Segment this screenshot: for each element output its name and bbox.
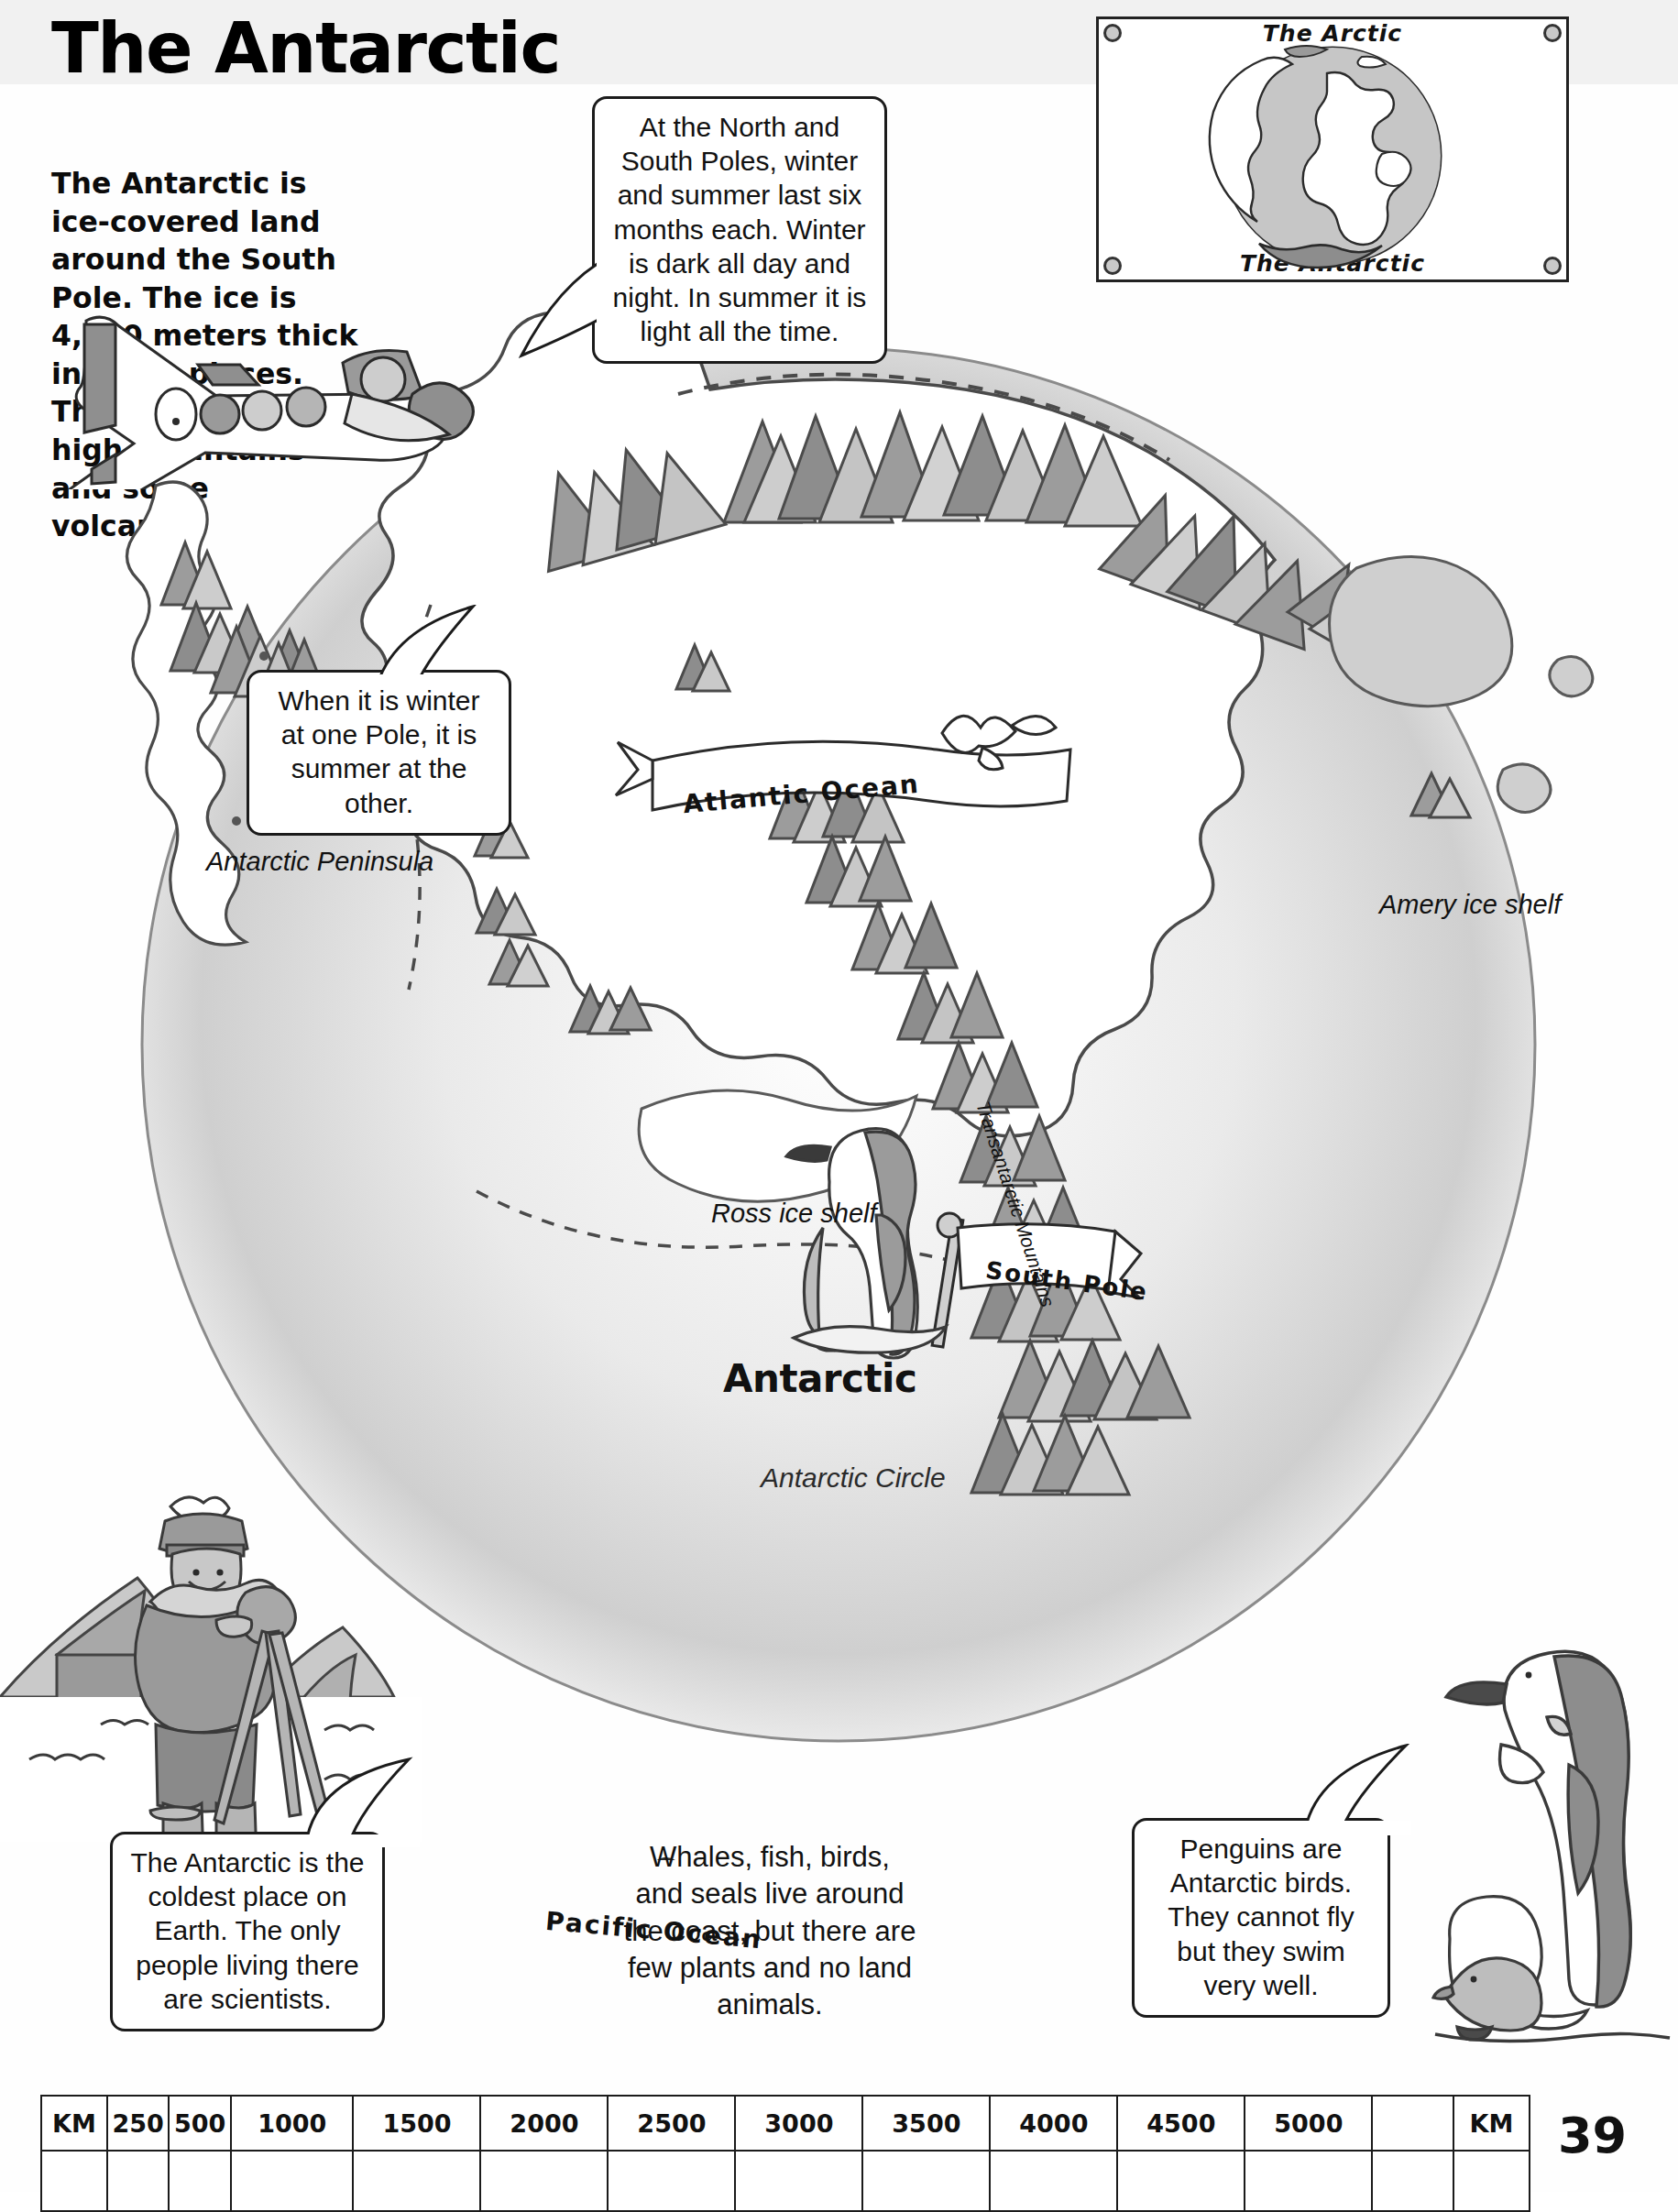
page-title: The Antarctic [51, 7, 560, 89]
label-antarctic-circle: Antarctic Circle [761, 1462, 946, 1494]
scale-bar-cell: 2000 [480, 2096, 608, 2151]
wildlife-caption: Whales, fish, birds, and seals live arou… [623, 1839, 916, 2023]
speech-bubble-penguins: Penguins are Antarctic birds. They canno… [1132, 1818, 1390, 2018]
bubble-tail-icon [1301, 1744, 1411, 1835]
scale-bar-blank-cell [990, 2151, 1117, 2211]
scale-bar-cell: KM [1453, 2096, 1530, 2151]
bubble-seasons-text: When it is winter at one Pole, it is sum… [278, 685, 479, 818]
scale-bar-cell: 3500 [862, 2096, 990, 2151]
scale-bar-blank-cell [353, 2151, 480, 2211]
scale-bar-blank-cell [608, 2151, 735, 2211]
scale-bar-labels-row: KM25050010001500200025003000350040004500… [41, 2096, 1530, 2151]
bubble-tail-icon [512, 253, 613, 363]
scale-bar-blank-cell [41, 2151, 107, 2211]
scale-bar-cell: 2500 [608, 2096, 735, 2151]
scale-bar-blank-cell [1117, 2151, 1245, 2211]
scale-bar-cell: 250 [107, 2096, 170, 2151]
scale-bar-blank-cell [231, 2151, 353, 2211]
airplane-illustration [48, 306, 488, 489]
globe-inset-panel: The Arctic The Antarctic [1096, 16, 1569, 282]
speech-bubble-seasons: When it is winter at one Pole, it is sum… [247, 670, 511, 836]
label-antarctic-continent: Antarctic [723, 1356, 916, 1401]
label-antarctic-peninsula: Antarctic Peninsula [206, 847, 433, 877]
penguin-family-illustration [1417, 1646, 1678, 2067]
map-scale-bar: KM25050010001500200025003000350040004500… [40, 2095, 1530, 2212]
label-ross-ice-shelf: Ross ice shelf [711, 1199, 877, 1229]
scale-bar-cell: 4000 [990, 2096, 1117, 2151]
offshore-islands [1497, 656, 1593, 812]
bubble-penguins-text: Penguins are Antarctic birds. They canno… [1168, 1834, 1354, 2000]
page-root: The Antarctic The Antarctic is ice-cover… [0, 0, 1678, 2192]
scale-bar-cell: 5000 [1245, 2096, 1372, 2151]
bubble-poles-text: At the North and South Poles, winter and… [613, 112, 867, 346]
scale-bar-cell: 1000 [231, 2096, 353, 2151]
bubble-tail-icon [301, 1756, 420, 1847]
scale-bar-cell: 1500 [353, 2096, 480, 2151]
speech-bubble-coldest: The Antarctic is the coldest place on Ea… [110, 1832, 385, 2031]
scale-bar-blank-cell [735, 2151, 862, 2211]
page-number: 39 [1558, 2107, 1627, 2164]
bubble-tail-icon [368, 605, 478, 687]
globe-earth-icon [1096, 16, 1569, 282]
bubble-coldest-text: The Antarctic is the coldest place on Ea… [130, 1847, 364, 2014]
scale-bar-blank-cell [107, 2151, 170, 2211]
scale-bar-cell: 500 [169, 2096, 231, 2151]
scale-bar-cell: KM [41, 2096, 107, 2151]
scale-bar-blank-cell [1453, 2151, 1530, 2211]
scale-bar-blank-cell [169, 2151, 231, 2211]
scale-bar-blank-cell [1372, 2151, 1453, 2211]
scale-bar-blank-cell [862, 2151, 990, 2211]
scale-bar-cell [1372, 2096, 1453, 2151]
speech-bubble-poles: At the North and South Poles, winter and… [592, 96, 887, 364]
scale-bar-cell: 4500 [1117, 2096, 1245, 2151]
label-amery-ice-shelf: Amery ice shelf [1379, 890, 1561, 920]
scale-bar-cell: 3000 [735, 2096, 862, 2151]
scale-bar-blank-row [41, 2151, 1530, 2211]
scale-bar-blank-cell [480, 2151, 608, 2211]
scale-bar-blank-cell [1245, 2151, 1372, 2211]
amery-ice-shelf-area [1330, 556, 1512, 706]
